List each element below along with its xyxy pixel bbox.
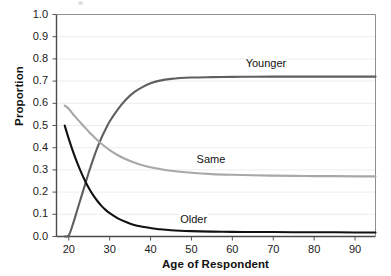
series-label-older: Older — [179, 213, 208, 225]
x-tick-label: 50 — [178, 243, 204, 255]
y-tick-label: 0.5 — [22, 119, 48, 131]
chart-figure: Proportion Age of Respondent 0.00.10.20.… — [0, 0, 391, 276]
y-tick-label: 0.0 — [22, 230, 48, 242]
gridlines — [57, 15, 376, 215]
y-tick-label: 0.6 — [22, 96, 48, 108]
x-tick-label: 70 — [260, 243, 286, 255]
y-tick-label: 0.2 — [22, 185, 48, 197]
x-tick-label: 90 — [342, 243, 368, 255]
x-tick-label: 80 — [301, 243, 327, 255]
x-axis-title: Age of Respondent — [56, 258, 375, 270]
series-label-same: Same — [196, 153, 227, 165]
x-tick-label: 20 — [56, 243, 82, 255]
y-tick-label: 0.9 — [22, 30, 48, 42]
axis-ticks — [53, 15, 356, 241]
series-label-younger: Younger — [245, 57, 288, 69]
y-tick-label: 0.4 — [22, 141, 48, 153]
y-tick-label: 0.7 — [22, 74, 48, 86]
x-tick-label: 30 — [97, 243, 123, 255]
y-tick-label: 1.0 — [22, 8, 48, 20]
y-tick-label: 0.8 — [22, 52, 48, 64]
y-tick-label: 0.3 — [22, 163, 48, 175]
y-tick-label: 0.1 — [22, 207, 48, 219]
scan-artifact — [78, 1, 83, 5]
x-tick-label: 40 — [138, 243, 164, 255]
x-tick-label: 60 — [219, 243, 245, 255]
plot-canvas — [0, 0, 391, 276]
